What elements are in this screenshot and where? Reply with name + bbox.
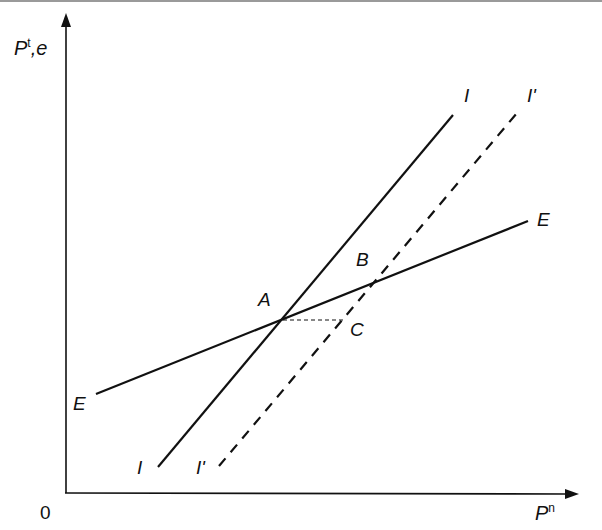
point-a-label: A bbox=[258, 290, 271, 309]
origin-label: 0 bbox=[40, 503, 51, 522]
point-c-label: C bbox=[350, 320, 364, 339]
x-axis-label: Pn bbox=[535, 503, 555, 523]
x-axis-arrow-icon bbox=[565, 489, 579, 499]
y-axis-label-sup: t bbox=[27, 36, 30, 50]
x-axis-label-main: P bbox=[535, 502, 548, 524]
y-axis-label-main: P bbox=[14, 37, 27, 59]
e-line bbox=[96, 221, 528, 394]
i-line-label-bottom: I bbox=[137, 458, 142, 477]
e-line-label-left: E bbox=[73, 394, 86, 413]
i-line bbox=[158, 115, 453, 467]
x-axis bbox=[65, 493, 568, 494]
point-b-label: B bbox=[356, 250, 369, 269]
i-prime-line-label-bottom: I' bbox=[196, 458, 205, 477]
e-line-label-right: E bbox=[537, 210, 550, 229]
y-axis-label-suffix: ,e bbox=[31, 37, 48, 59]
y-axis-arrow-icon bbox=[61, 13, 71, 27]
i-line-label-top: I bbox=[464, 86, 469, 105]
i-prime-line-label-top: I' bbox=[527, 86, 536, 105]
diagram-canvas bbox=[0, 0, 602, 530]
y-axis-label: Pt,e bbox=[14, 38, 47, 58]
x-axis-label-sup: n bbox=[548, 501, 555, 515]
